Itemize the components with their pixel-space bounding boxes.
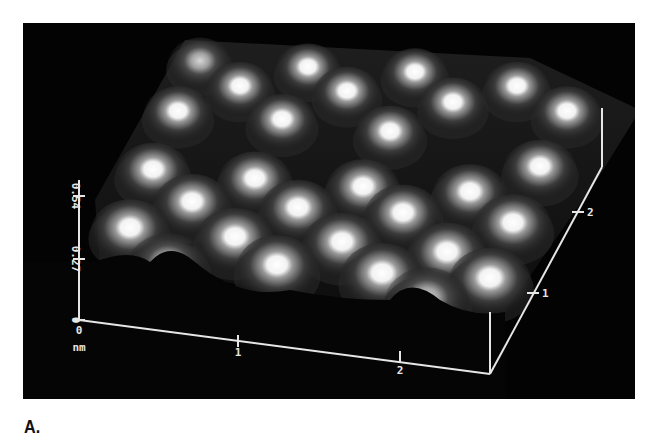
surface-peak: [355, 106, 426, 166]
surface-peak: [143, 86, 212, 145]
figure-label: A.: [24, 416, 40, 438]
surface-peak: [532, 86, 601, 145]
surface-plot-panel: [23, 23, 635, 399]
surface-peak: [419, 78, 487, 136]
surface-peak: [503, 140, 577, 203]
surface-peak: [247, 94, 317, 153]
surface-render: [23, 23, 635, 399]
